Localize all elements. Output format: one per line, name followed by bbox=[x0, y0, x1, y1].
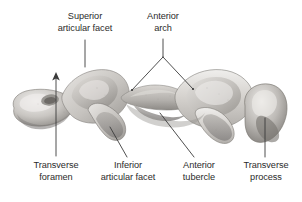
label-anterior-arch-line1: Anterior bbox=[126, 11, 200, 23]
bone-body bbox=[13, 70, 287, 144]
label-inferior-articular-facet-line1: Inferior bbox=[86, 160, 170, 172]
anatomy-figure: Superior articular facet Anterior arch T… bbox=[0, 0, 302, 202]
label-superior-articular-facet: Superior articular facet bbox=[40, 11, 130, 34]
label-transverse-process-line2: process bbox=[230, 172, 302, 184]
label-anterior-tubercle-line2: tubercle bbox=[166, 172, 232, 184]
label-inferior-articular-facet-line2: articular facet bbox=[86, 172, 170, 184]
label-inferior-articular-facet: Inferior articular facet bbox=[86, 160, 170, 183]
label-superior-articular-facet-line2: articular facet bbox=[40, 23, 130, 35]
label-anterior-tubercle: Anterior tubercle bbox=[166, 160, 232, 183]
label-anterior-arch: Anterior arch bbox=[126, 11, 200, 34]
label-transverse-process-line1: Transverse bbox=[230, 160, 302, 172]
label-anterior-arch-line2: arch bbox=[126, 23, 200, 35]
label-transverse-process: Transverse process bbox=[230, 160, 302, 183]
label-anterior-tubercle-line1: Anterior bbox=[166, 160, 232, 172]
label-superior-articular-facet-line1: Superior bbox=[40, 11, 130, 23]
